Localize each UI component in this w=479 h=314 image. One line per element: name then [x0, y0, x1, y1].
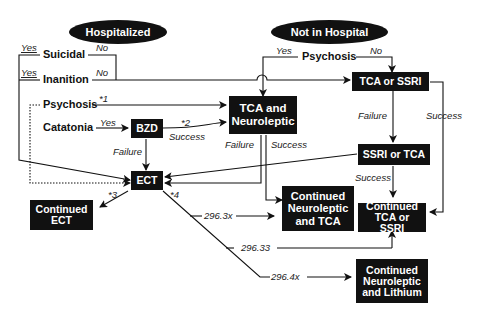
hospitalized-header: Hospitalized	[69, 20, 167, 44]
psychosis-outpatient-label: Psychosis	[302, 50, 356, 62]
outpatient-psychosis-yes-label: Yes	[275, 45, 293, 56]
psychosis-hospital-label: Psychosis	[43, 98, 97, 110]
code-296-33-label: 296.33	[240, 242, 271, 253]
inanition-label: Inanition	[43, 73, 89, 85]
inanition-yes-label: Yes	[20, 67, 38, 78]
code-296-4x-label: 296.4x	[270, 271, 301, 282]
bzd-failure-label: Failure	[112, 146, 143, 157]
ssri-or-tca-box: SSRI or TCA	[358, 144, 430, 165]
ect-box: ECT	[131, 171, 163, 190]
suicidal-no-label: No	[95, 42, 109, 53]
psychosis-note-1: *1	[98, 93, 109, 104]
continued-neuroleptic-and-tca-box: Continued Neuroleptic and TCA	[282, 186, 354, 231]
tca-and-neuroleptic-box: TCA and Neuroleptic	[229, 96, 297, 134]
ssri-tca-success-label: Success	[354, 172, 392, 183]
bzd-success-label: Success	[168, 131, 206, 142]
tcan-success-label: Success	[270, 139, 308, 150]
code-296-3x-label: 296.3x	[203, 210, 234, 221]
bzd-box: BZD	[131, 119, 163, 138]
tca-ssri-success-label: Success	[425, 110, 463, 121]
tca-or-ssri-box: TCA or SSRI	[352, 72, 429, 91]
suicidal-yes-label: Yes	[20, 42, 38, 53]
outpatient-psychosis-no-label: No	[369, 45, 383, 56]
continued-neuroleptic-and-lithium-box: Continued Neuroleptic and Lithium	[356, 259, 428, 303]
inanition-no-label: No	[95, 67, 109, 78]
continued-tca-or-ssri-box: Continued TCA or SSRI	[358, 203, 426, 232]
depression-treatment-flowchart: Hospitalized Not in Hospital Suicidal In…	[0, 0, 479, 314]
bzd-note-2: *2	[180, 117, 191, 128]
tcan-failure-label: Failure	[224, 139, 255, 150]
tca-ssri-failure-label: Failure	[357, 110, 388, 121]
catatonia-yes-label: Yes	[99, 117, 117, 128]
ect-note-3: *3	[107, 189, 118, 200]
catatonia-label: Catatonia	[43, 121, 93, 133]
continued-ect-box: Continued ECT	[30, 200, 93, 230]
not-in-hospital-header: Not in Hospital	[271, 20, 388, 44]
ect-note-4: *4	[169, 189, 180, 200]
suicidal-label: Suicidal	[43, 48, 85, 60]
